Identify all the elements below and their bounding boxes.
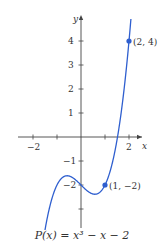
xtick-label-2: 2 — [126, 142, 132, 152]
y-axis-arrow-icon — [79, 15, 83, 20]
ytick-label-3: 3 — [68, 60, 74, 70]
x-axis-arrow-icon — [137, 135, 142, 139]
point-1-neg2 — [102, 182, 107, 187]
xtick-label-neg2: −2 — [27, 142, 40, 152]
point-2-4 — [126, 38, 131, 43]
point-label-1-neg2: (1, −2) — [109, 181, 141, 191]
x-axis-label: x — [142, 141, 147, 151]
ytick-label-neg1: −1 — [63, 156, 76, 166]
ytick-label-4: 4 — [68, 36, 74, 46]
point-label-2-4: (2, 4) — [133, 37, 157, 47]
ytick-label-2: 2 — [68, 84, 74, 94]
ytick-label-1: 1 — [68, 108, 74, 118]
function-caption: P(x) = x³ − x − 2 — [0, 229, 164, 242]
ytick-label-neg2: −2 — [63, 180, 76, 190]
caption-text: P(x) = x³ − x − 2 — [35, 229, 130, 242]
chart-canvas: −2 2 x y 4 3 2 1 −1 −2 (2, 4) (1, −2) — [0, 0, 164, 252]
y-axis-label: y — [72, 14, 79, 24]
curve-p-of-x — [45, 19, 131, 230]
